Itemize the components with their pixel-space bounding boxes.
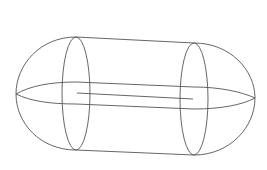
- cylinder-bottom-edge: [76, 150, 194, 155]
- right-hemisphere-outline: [194, 43, 255, 155]
- left-hemisphere-outline: [16, 37, 76, 150]
- cylinder-top-edge: [76, 37, 194, 43]
- right-cross-section-ring: [180, 43, 208, 155]
- central-axis-line: [77, 93, 193, 99]
- capsule-diagram: [0, 0, 267, 170]
- capsule-wireframe: [0, 0, 267, 170]
